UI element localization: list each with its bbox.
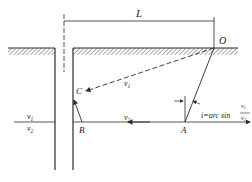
point-A-label: A — [180, 125, 187, 135]
angle-arrow-right — [193, 101, 200, 104]
v1-label-ray: v1 — [124, 79, 131, 89]
v2-label-left: v2 — [27, 124, 34, 134]
point-B-label: B — [79, 125, 85, 135]
ground-hatch-left — [8, 48, 55, 55]
diagram-svg: L O A B C v1 v2 v1 v2 i=arc sin v1 v2 — [0, 0, 252, 182]
formula-numerator: v1 — [241, 103, 246, 110]
dimension-label: L — [135, 7, 142, 19]
ray-B-to-wall — [74, 100, 82, 122]
angle-formula: i=arc sin — [201, 111, 230, 120]
point-O-label: O — [219, 35, 226, 46]
v1-label-left: v1 — [27, 112, 34, 122]
point-C-label: C — [76, 86, 83, 96]
refraction-diagram: L O A B C v1 v2 v1 v2 i=arc sin v1 v2 — [0, 0, 252, 182]
formula-denominator: v2 — [241, 115, 247, 122]
v2-label-interface: v2 — [124, 113, 131, 123]
